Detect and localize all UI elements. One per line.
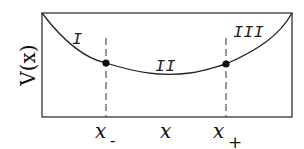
region-I-label: I (72, 30, 82, 49)
x-axis-label: x (160, 119, 171, 143)
x-plus-subscript: + (228, 132, 242, 149)
turning-point-x-minus (102, 59, 109, 66)
region-III-label: III (233, 23, 264, 42)
x-minus-subscript: - (110, 131, 115, 149)
region-II-label: II (155, 57, 175, 76)
turning-point-x-plus (222, 60, 229, 67)
y-axis-label: V(x) (16, 44, 40, 86)
x-plus-label: x (213, 119, 224, 143)
potential-diagram: I II III V(x) x - x x + (0, 0, 304, 149)
x-minus-label: x (95, 119, 106, 143)
